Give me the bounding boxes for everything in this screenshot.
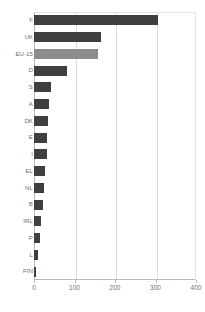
- y-axis-label-irl: IRL: [0, 213, 33, 230]
- bar-f: [34, 15, 158, 25]
- bar-row: [34, 12, 158, 29]
- bar-row: [34, 62, 67, 79]
- x-axis-tick-label-400: 400: [181, 284, 205, 291]
- bar-row: [34, 247, 38, 264]
- y-axis-label-f: F: [0, 12, 33, 29]
- y-axis-label-nl: NL: [0, 180, 33, 197]
- bar-row: [34, 180, 44, 197]
- bar-row: [34, 129, 47, 146]
- bar-row: [34, 96, 49, 113]
- bar-row: [34, 29, 101, 46]
- bar-irl: [34, 216, 41, 226]
- y-axis-label-fin: FIN: [0, 263, 33, 280]
- x-axis-tick-label-200: 200: [100, 284, 130, 291]
- bar-row: [34, 163, 45, 180]
- y-axis-label-p: P: [0, 230, 33, 247]
- bar-chart: FUKEU-15DSADKEIELNLBIRLPLFIN 01002003004…: [0, 0, 205, 312]
- x-axis-tick-mark: [115, 280, 116, 283]
- y-axis-label-d: D: [0, 62, 33, 79]
- bar-s: [34, 82, 51, 92]
- x-axis-tick-mark: [34, 280, 35, 283]
- bar-p: [34, 233, 40, 243]
- y-axis-label-i: I: [0, 146, 33, 163]
- y-axis-label-b: B: [0, 196, 33, 213]
- y-axis-label-e: E: [0, 129, 33, 146]
- bar-row: [34, 230, 40, 247]
- x-axis-tick-mark: [156, 280, 157, 283]
- bar-b: [34, 200, 43, 210]
- bar-row: [34, 263, 36, 280]
- x-axis-tick-label-100: 100: [60, 284, 90, 291]
- y-axis-label-l: L: [0, 247, 33, 264]
- bar-l: [34, 250, 38, 260]
- bar-e: [34, 133, 47, 143]
- x-axis-tick-label-300: 300: [141, 284, 171, 291]
- bar-dk: [34, 116, 48, 126]
- bar-i: [34, 149, 47, 159]
- y-axis-label-eu-15: EU-15: [0, 46, 33, 63]
- y-axis-label-s: S: [0, 79, 33, 96]
- bar-row: [34, 79, 51, 96]
- gridline: [116, 13, 117, 279]
- x-axis-tick-label-0: 0: [19, 284, 49, 291]
- y-axis-label-uk: UK: [0, 29, 33, 46]
- bar-row: [34, 46, 98, 63]
- bar-d: [34, 66, 67, 76]
- bar-eu-15: [34, 49, 98, 59]
- bar-row: [34, 196, 43, 213]
- bar-fin: [34, 267, 36, 277]
- bar-a: [34, 99, 49, 109]
- bar-nl: [34, 183, 44, 193]
- x-axis-tick-mark: [75, 280, 76, 283]
- bar-el: [34, 166, 45, 176]
- bar-row: [34, 113, 48, 130]
- x-axis-tick-mark: [196, 280, 197, 283]
- bar-row: [34, 146, 47, 163]
- y-axis-label-a: A: [0, 96, 33, 113]
- bar-uk: [34, 32, 101, 42]
- bar-row: [34, 213, 41, 230]
- gridline: [157, 13, 158, 279]
- y-axis-label-dk: DK: [0, 113, 33, 130]
- y-axis-label-el: EL: [0, 163, 33, 180]
